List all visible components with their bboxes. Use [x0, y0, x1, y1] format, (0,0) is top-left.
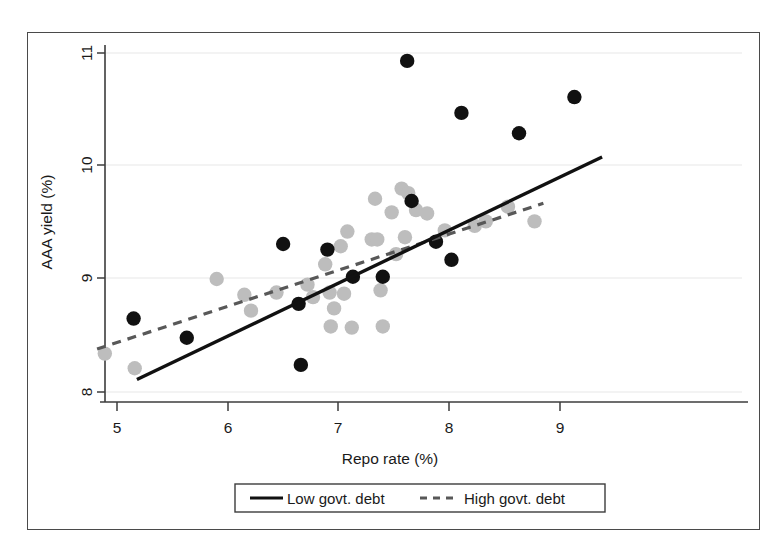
data-point: [454, 106, 468, 120]
data-point: [527, 214, 541, 228]
data-point: [376, 270, 390, 284]
x-tick-label: 9: [556, 419, 565, 436]
data-point: [128, 361, 142, 375]
x-tick-labels: 5 6 7 8 9: [113, 419, 565, 436]
x-tick-label: 8: [445, 419, 454, 436]
data-point: [324, 319, 338, 333]
y-axis-title: AAA yield (%): [38, 175, 55, 270]
data-point: [368, 192, 382, 206]
data-point: [126, 311, 140, 325]
x-tick-label: 7: [334, 419, 343, 436]
data-point: [420, 206, 434, 220]
data-point: [244, 303, 258, 317]
data-point: [384, 205, 398, 219]
figure-root: 11 10 9 8 5 6 7 8 9 Repo rate (%) AAA yi…: [0, 0, 783, 550]
data-point: [294, 358, 308, 372]
data-point: [209, 272, 223, 286]
data-point: [345, 320, 359, 334]
y-tick-labels: 11 10 9 8: [78, 45, 95, 396]
data-point: [318, 257, 332, 271]
data-point: [340, 224, 354, 238]
x-axis-title: Repo rate (%): [342, 450, 438, 467]
data-point: [567, 90, 581, 104]
data-point: [337, 286, 351, 300]
data-point: [276, 237, 290, 251]
legend-label-high-govt-debt: High govt. debt: [464, 490, 566, 507]
x-tick-label: 6: [224, 419, 233, 436]
data-point: [444, 253, 458, 267]
scatter-plot: 11 10 9 8 5 6 7 8 9 Repo rate (%) AAA yi…: [0, 0, 783, 550]
y-tick-label: 9: [78, 274, 95, 283]
y-tick-label: 8: [78, 388, 95, 397]
data-point: [180, 331, 194, 345]
x-tick-label: 5: [113, 419, 122, 436]
gridlines: [105, 53, 742, 392]
data-point: [404, 194, 418, 208]
x-axis-ticks: [117, 402, 560, 411]
data-point: [398, 230, 412, 244]
y-tick-label: 11: [78, 45, 95, 61]
legend: Low govt. debt High govt. debt: [235, 484, 605, 512]
data-point: [512, 126, 526, 140]
data-point: [373, 283, 387, 297]
trend-line-low-govt-debt: [137, 157, 602, 380]
data-point: [327, 301, 341, 315]
data-point: [376, 319, 390, 333]
axis-lines: [100, 45, 748, 402]
data-point: [334, 239, 348, 253]
y-axis-ticks: [97, 53, 105, 392]
legend-label-low-govt-debt: Low govt. debt: [287, 490, 385, 507]
y-tick-label: 10: [78, 156, 95, 174]
data-point: [320, 242, 334, 256]
data-point: [400, 54, 414, 68]
data-point: [370, 232, 384, 246]
